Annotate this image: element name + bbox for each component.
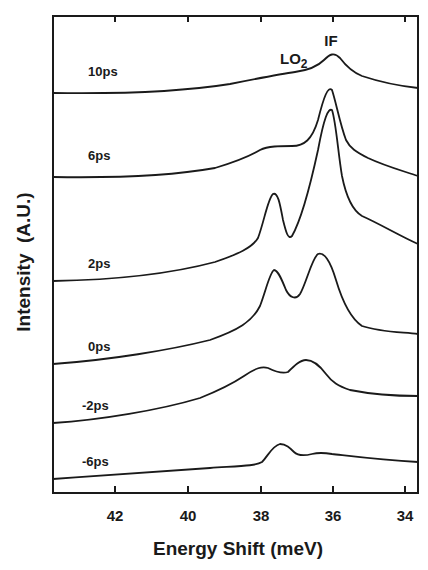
trace-6ps bbox=[53, 89, 418, 177]
if-peak-label: IF bbox=[324, 32, 337, 49]
x-tick-42: 42 bbox=[107, 507, 124, 524]
trace-label-neg6ps: -6ps bbox=[82, 454, 109, 469]
trace-neg2ps bbox=[53, 360, 418, 423]
trace-label-6ps: 6ps bbox=[88, 148, 110, 163]
x-tick-40: 40 bbox=[180, 507, 197, 524]
x-tick-36: 36 bbox=[325, 507, 342, 524]
trace-label-2ps: 2ps bbox=[88, 256, 110, 271]
trace-label-0ps: 0ps bbox=[88, 339, 110, 354]
x-ticks-bottom bbox=[115, 486, 405, 493]
trace-label-neg2ps: -2ps bbox=[82, 398, 109, 413]
chart: 42 40 38 36 34 Energy Shift (meV) Intens… bbox=[0, 0, 428, 570]
x-tick-38: 38 bbox=[253, 507, 270, 524]
x-tick-34: 34 bbox=[397, 507, 414, 524]
y-axis-title: Intensity (A.U.) bbox=[13, 192, 34, 331]
x-tick-labels: 42 40 38 36 34 bbox=[107, 507, 414, 524]
x-axis-title: Energy Shift (meV) bbox=[153, 538, 323, 559]
lo2-peak-label: LO2 bbox=[280, 50, 308, 71]
trace-label-10ps: 10ps bbox=[88, 64, 118, 79]
trace-labels: 10ps 6ps 2ps 0ps -2ps -6ps bbox=[82, 64, 118, 469]
